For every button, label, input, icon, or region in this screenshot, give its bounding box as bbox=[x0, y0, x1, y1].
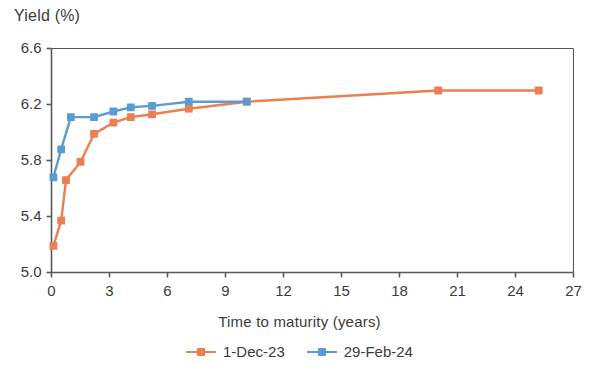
legend-swatch-icon bbox=[307, 346, 337, 358]
y-tick-label: 6.6 bbox=[2, 39, 42, 56]
x-tick-label: 18 bbox=[380, 282, 420, 299]
x-tick-label: 27 bbox=[554, 282, 594, 299]
x-tick-label: 9 bbox=[206, 282, 246, 299]
x-tick-label: 24 bbox=[496, 282, 536, 299]
x-axis-title: Time to maturity (years) bbox=[0, 313, 599, 330]
x-tick-label: 12 bbox=[264, 282, 304, 299]
legend-entry[interactable]: 29-Feb-24 bbox=[307, 343, 413, 360]
x-tick-label: 15 bbox=[322, 282, 362, 299]
y-tick-label: 5.0 bbox=[2, 263, 42, 280]
legend-entry[interactable]: 1-Dec-23 bbox=[186, 343, 285, 360]
y-tick-label: 6.2 bbox=[2, 95, 42, 112]
y-tick-label: 5.8 bbox=[2, 151, 42, 168]
axis-frame bbox=[52, 49, 574, 273]
x-tick-label: 3 bbox=[90, 282, 130, 299]
legend-swatch-icon bbox=[186, 346, 216, 358]
legend-label: 29-Feb-24 bbox=[344, 343, 413, 360]
x-tick-label: 21 bbox=[438, 282, 478, 299]
yield-curve-chart: Yield (%) 5.05.45.86.26.6 03691215182124… bbox=[0, 0, 599, 370]
series-1 bbox=[50, 87, 543, 250]
chart-legend: 1-Dec-2329-Feb-24 bbox=[0, 343, 599, 360]
series-2 bbox=[50, 98, 251, 181]
legend-label: 1-Dec-23 bbox=[223, 343, 285, 360]
x-tick-label: 6 bbox=[148, 282, 188, 299]
x-tick-label: 0 bbox=[32, 282, 72, 299]
y-tick-label: 5.4 bbox=[2, 207, 42, 224]
